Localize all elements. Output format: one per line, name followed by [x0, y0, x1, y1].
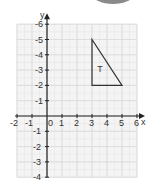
y-tick-label: -5 — [35, 35, 43, 45]
y-tick-label: -2 — [33, 142, 41, 152]
y-tick-label: -4 — [35, 50, 43, 60]
coordinate-grid: xy-2-10123456-6-5-4-3-2-1-1-2-3-4T — [0, 0, 157, 189]
x-tick-label: 5 — [119, 118, 124, 128]
triangle-label: T — [97, 64, 103, 74]
y-tick-label: -4 — [33, 172, 41, 182]
y-tick-label: -3 — [35, 65, 43, 75]
x-axis-label: x — [141, 117, 146, 127]
y-axis-arrow-icon — [44, 13, 50, 19]
y-tick-label: -1 — [33, 126, 41, 136]
y-tick-label: -3 — [33, 157, 41, 167]
x-tick-label: 1 — [59, 118, 64, 128]
x-tick-label: -1 — [25, 118, 33, 128]
y-tick-label: -1 — [35, 96, 43, 106]
x-tick-label: 4 — [104, 118, 109, 128]
y-tick-label: -2 — [35, 80, 43, 90]
x-tick-label: 6 — [134, 118, 139, 128]
x-tick-label: 0 — [48, 118, 53, 128]
y-tick-label: -6 — [35, 19, 43, 29]
x-tick-label: -2 — [10, 118, 18, 128]
x-tick-label: 3 — [89, 118, 94, 128]
x-tick-label: 2 — [74, 118, 79, 128]
